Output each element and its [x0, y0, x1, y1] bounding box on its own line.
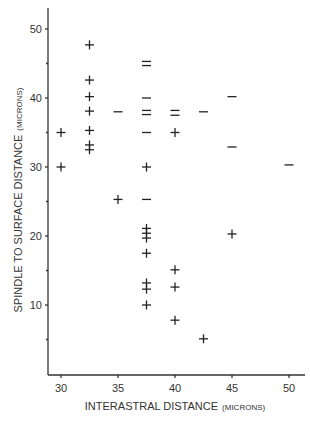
data-points	[57, 40, 294, 343]
plus-marker	[142, 163, 151, 172]
plus-marker	[171, 283, 180, 292]
x-tick-label: 30	[55, 382, 67, 394]
x-tick-label: 35	[112, 382, 124, 394]
y-tick-label: 40	[30, 92, 42, 104]
plus-marker	[142, 285, 151, 294]
plus-marker	[171, 265, 180, 274]
plus-marker	[85, 76, 94, 85]
plus-marker	[142, 301, 151, 310]
plus-marker	[142, 234, 151, 243]
y-axis-title: SPINDLE TO SURFACE DISTANCE(MICRONS)	[12, 87, 24, 312]
y-tick-label: 30	[30, 161, 42, 173]
plus-marker	[57, 163, 66, 172]
x-tick-label: 50	[283, 382, 295, 394]
plus-marker	[85, 92, 94, 101]
y-tick-label: 50	[30, 23, 42, 35]
plus-marker	[171, 128, 180, 137]
y-tick-label: 10	[30, 299, 42, 311]
scatter-chart: 10203040503035404550 INTERASTRAL DISTANC…	[0, 0, 310, 424]
plus-marker	[199, 334, 208, 343]
y-tick-label: 20	[30, 230, 42, 242]
plus-marker	[114, 195, 123, 204]
plus-marker	[228, 229, 237, 238]
plus-marker	[85, 107, 94, 116]
axes: 10203040503035404550	[30, 8, 305, 394]
x-tick-label: 40	[169, 382, 181, 394]
plus-marker	[171, 316, 180, 325]
x-axis-title: INTERASTRAL DISTANCE(MICRONS)	[85, 400, 266, 412]
plus-marker	[85, 126, 94, 135]
plus-marker	[57, 128, 66, 137]
x-tick-label: 45	[226, 382, 238, 394]
plus-marker	[142, 249, 151, 258]
plus-marker	[85, 145, 94, 154]
plus-marker	[85, 40, 94, 49]
